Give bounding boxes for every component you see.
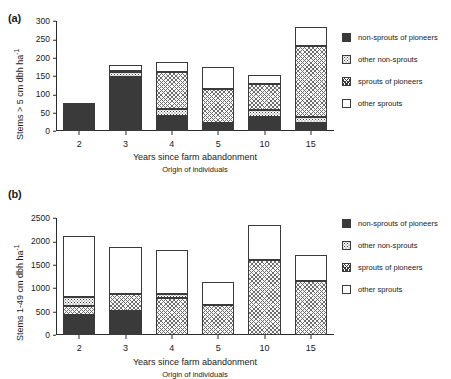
- bar-segment: [63, 103, 95, 105]
- x-tick-label: 3: [123, 344, 128, 353]
- bar-segment: [202, 282, 234, 304]
- bar-group: [156, 21, 188, 131]
- bar-segment: [248, 84, 280, 110]
- legend-label: sprouts of pioneers: [358, 78, 423, 86]
- bar-segment: [109, 294, 141, 310]
- panel-b-y-axis-label: Stems 1-49 cm dbh ha-1: [14, 244, 25, 341]
- bar-segment: [295, 255, 327, 282]
- bar-segment: [109, 65, 141, 72]
- bar-segment: [156, 109, 188, 116]
- legend-item: other non-sprouts: [342, 54, 438, 65]
- x-tick-mark: [218, 131, 219, 135]
- bar-segment: [63, 236, 95, 297]
- y-tick-label: 300: [36, 17, 56, 26]
- x-tick-mark: [310, 131, 311, 135]
- panel-b-legend: non-sprouts of pioneersother non-sprouts…: [342, 218, 438, 306]
- bar-segment: [248, 117, 280, 131]
- bar-segment: [202, 305, 234, 335]
- x-tick-label: 10: [259, 140, 269, 149]
- panel-a-bars: [56, 21, 334, 131]
- bar-segment: [202, 67, 234, 89]
- bar-segment: [156, 116, 188, 131]
- bar-segment: [63, 315, 95, 335]
- bar-segment: [156, 250, 188, 294]
- bar-segment: [202, 123, 234, 131]
- x-tick-label: 5: [216, 140, 221, 149]
- y-tick-label: 100: [36, 90, 56, 99]
- y-tick-label: 200: [36, 53, 56, 62]
- bar-segment: [109, 72, 141, 76]
- x-tick-mark: [79, 335, 80, 339]
- bar-segment: [63, 306, 95, 315]
- x-tick-mark: [171, 131, 172, 135]
- y-tick-label: 250: [36, 35, 56, 44]
- panel-a-x-axis-label: Years since farm abandonment: [56, 153, 334, 163]
- x-tick-label: 15: [306, 140, 316, 149]
- panel-b: (b) Stems 1-49 cm dbh ha-1 0500100015002…: [0, 186, 451, 379]
- bar-group: [156, 218, 188, 335]
- bar-segment: [109, 311, 141, 335]
- bar-segment: [109, 247, 141, 294]
- legend-label: other non-sprouts: [358, 242, 418, 250]
- y-tick-label: 2000: [31, 237, 56, 246]
- bar-segment: [248, 260, 280, 335]
- bar-group: [109, 218, 141, 335]
- panel-b-bars: [56, 218, 334, 335]
- x-tick-mark: [264, 335, 265, 339]
- legend-swatch: [342, 219, 351, 228]
- x-tick-mark: [125, 335, 126, 339]
- panel-b-x-ticks: 23451015: [56, 335, 334, 357]
- y-tick-label: 2500: [31, 214, 56, 223]
- legend-swatch: [342, 241, 351, 250]
- x-tick-mark: [171, 335, 172, 339]
- x-tick-mark: [264, 131, 265, 135]
- legend-item: non-sprouts of pioneers: [342, 32, 438, 43]
- bar-segment: [295, 27, 327, 46]
- legend-item: non-sprouts of pioneers: [342, 218, 438, 229]
- x-tick-mark: [218, 335, 219, 339]
- bar-group: [248, 21, 280, 131]
- bar-segment: [156, 62, 188, 72]
- bar-segment: [248, 225, 280, 260]
- legend-swatch: [342, 33, 351, 42]
- bar-segment: [63, 105, 95, 131]
- bar-segment: [295, 46, 327, 117]
- y-tick-label: 1500: [31, 261, 56, 270]
- panel-a-tag: (a): [8, 12, 21, 24]
- panel-a-legend: non-sprouts of pioneersother non-sprouts…: [342, 32, 438, 120]
- legend-swatch: [342, 99, 351, 108]
- y-tick-label: 1000: [31, 284, 56, 293]
- legend-item: other sprouts: [342, 98, 438, 109]
- panel-b-tag: (b): [8, 188, 21, 200]
- bar-segment: [248, 75, 280, 84]
- bar-group: [202, 21, 234, 131]
- panel-a-y-axis-label: Stems > 5 cm dbh ha-1: [14, 49, 25, 140]
- x-tick-label: 5: [216, 344, 221, 353]
- bar-segment: [156, 298, 188, 335]
- panel-a-plot-area: 050100150200250300 23451015: [56, 21, 334, 131]
- figure-stacked-bar-charts: (a) Stems > 5 cm dbh ha-1 05010015020025…: [0, 0, 451, 379]
- y-tick-label: 150: [36, 72, 56, 81]
- x-tick-mark: [125, 131, 126, 135]
- bar-segment: [156, 294, 188, 297]
- legend-item: other sprouts: [342, 284, 438, 295]
- legend-item: sprouts of pioneers: [342, 76, 438, 87]
- bar-group: [202, 218, 234, 335]
- x-tick-label: 2: [77, 140, 82, 149]
- legend-item: sprouts of pioneers: [342, 262, 438, 273]
- legend-label: non-sprouts of pioneers: [358, 34, 438, 42]
- x-tick-label: 4: [169, 140, 174, 149]
- x-tick-mark: [310, 335, 311, 339]
- x-tick-label: 3: [123, 140, 128, 149]
- panel-b-x-axis-label: Years since farm abandonment: [56, 358, 334, 368]
- bar-group: [63, 218, 95, 335]
- panel-a-x-ticks: 23451015: [56, 131, 334, 153]
- panel-a-x-axis-sublabel: Origin of individuals: [56, 166, 334, 174]
- bar-segment: [63, 297, 95, 306]
- bar-group: [248, 218, 280, 335]
- y-tick-label: 0: [45, 331, 56, 340]
- bar-segment: [295, 281, 327, 335]
- panel-a: (a) Stems > 5 cm dbh ha-1 05010015020025…: [0, 0, 451, 190]
- legend-label: other non-sprouts: [358, 56, 418, 64]
- bar-segment: [202, 89, 234, 123]
